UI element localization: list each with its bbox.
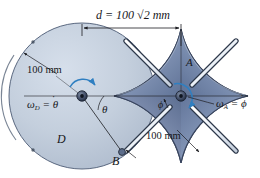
omega-disk-value: = θ˙ — [42, 99, 58, 110]
disk-mark-upper — [31, 40, 34, 43]
slot-upper-right — [192, 41, 236, 85]
phi-dot-accent: ˙ — [240, 93, 244, 104]
dimension-label-d-text: d = 100 √2 mm — [96, 8, 170, 22]
pin-name-label: B — [112, 155, 119, 167]
omega-star-label: ωA = ϕ˙ — [216, 98, 247, 110]
star-name-label: A — [186, 57, 193, 68]
dimension-label-d: d = 100 √2 mm — [96, 9, 170, 21]
omega-star-subscript: A — [224, 103, 228, 110]
star-radius-label: 100 mm — [146, 131, 181, 142]
angle-theta-label: θ — [102, 104, 107, 115]
omega-disk-subscript: D — [35, 104, 40, 111]
omega-disk-symbol: ω — [27, 98, 35, 110]
hub-disk — [77, 91, 87, 101]
theta-dot-accent: ˙ — [52, 94, 56, 105]
disk-radius-label: 100 mm — [27, 65, 62, 76]
omega-star-value-text: = ϕ — [231, 97, 247, 109]
pin-leader — [126, 150, 136, 158]
omega-star-value: = ϕ˙ — [231, 98, 247, 109]
disk-name-label: D — [57, 133, 66, 145]
omega-disk-value-text: = θ — [42, 98, 58, 110]
disk-mark-lower — [31, 148, 34, 151]
hub-star — [176, 91, 186, 101]
geneva-mechanism-figure — [0, 0, 260, 178]
omega-star-symbol: ω — [216, 97, 224, 109]
omega-disk-label: ωD = θ˙ — [27, 99, 58, 111]
angle-phi-label: ϕ — [158, 100, 163, 110]
slot-lower-right — [192, 107, 236, 151]
